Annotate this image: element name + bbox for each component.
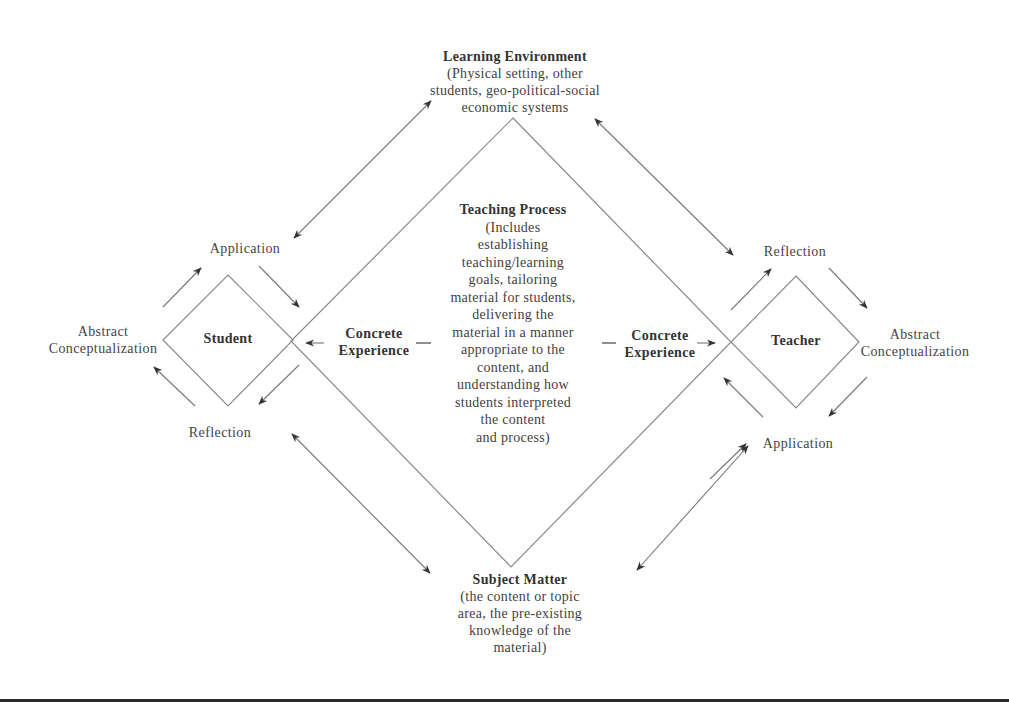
concrete-experience-left-label: Concrete Experience — [332, 325, 416, 359]
teaching-process-desc-4: goals, tailoring — [413, 271, 613, 289]
teacher-abstract-conceptualization-label: Abstract Conceptualization — [850, 326, 980, 360]
teaching-process-desc-10: understanding how — [413, 376, 613, 394]
student-abstract-line1: Abstract — [38, 323, 168, 340]
learning-environment-desc-2: students, geo-political-social — [395, 82, 635, 99]
student-abstract-line2: Conceptualization — [38, 340, 168, 357]
teaching-process-desc-7: material in a manner — [413, 324, 613, 342]
student-reflection-to-abstract-arrow-icon — [154, 367, 195, 406]
teacher-label: Teacher — [756, 333, 836, 349]
teaching-process-label: Teaching Process (Includes establishing … — [413, 201, 613, 446]
teaching-process-desc-3: teaching/learning — [413, 254, 613, 272]
subject-matter-desc-4: material) — [430, 639, 610, 656]
teaching-process-desc-9: content, and — [413, 359, 613, 377]
subject-matter-desc-2: area, the pre-existing — [430, 605, 610, 622]
teaching-process-desc-12: the content — [413, 411, 613, 429]
subject-matter-title: Subject Matter — [430, 571, 610, 588]
teaching-process-desc-1: (Includes — [413, 219, 613, 237]
subject-matter-label: Subject Matter (the content or topic are… — [430, 571, 610, 656]
teaching-process-desc-2: establishing — [413, 236, 613, 254]
teaching-process-title: Teaching Process — [413, 201, 613, 219]
teacher-application-to-concrete-arrow-icon — [724, 378, 763, 417]
teacher-application-label: Application — [743, 435, 853, 452]
subject-matter-desc-3: knowledge of the — [430, 622, 610, 639]
teacher-reflection-label: Reflection — [740, 243, 850, 260]
student-abstract-conceptualization-label: Abstract Conceptualization — [38, 323, 168, 357]
learning-environment-label: Learning Environment (Physical setting, … — [395, 48, 635, 116]
subject-student-double-arrow-icon — [292, 434, 430, 573]
concrete-left-line2: Experience — [332, 342, 416, 359]
learning-environment-desc-1: (Physical setting, other — [395, 65, 635, 82]
env-student-double-arrow-icon — [294, 101, 431, 238]
teacher-abstract-line1: Abstract — [850, 326, 980, 343]
teacher-concrete-to-reflection-arrow-icon — [731, 269, 771, 310]
subject-teacher-double-arrow-icon — [637, 446, 748, 570]
teaching-process-desc-8: appropriate to the — [413, 341, 613, 359]
student-abstract-to-application-arrow-icon — [163, 268, 201, 307]
teacher-abstract-line2: Conceptualization — [850, 343, 980, 360]
teacher-reflection-to-abstract-arrow-icon — [829, 268, 867, 308]
concrete-right-line2: Experience — [618, 344, 702, 361]
concrete-left-line1: Concrete — [332, 325, 416, 342]
teaching-process-desc-13: and process) — [413, 429, 613, 447]
student-reflection-label: Reflection — [170, 424, 270, 441]
teaching-process-desc-5: material for students, — [413, 289, 613, 307]
student-application-label: Application — [190, 240, 300, 257]
student-label: Student — [188, 331, 268, 347]
learning-environment-title: Learning Environment — [395, 48, 635, 65]
subject-matter-desc-1: (the content or topic — [430, 588, 610, 605]
env-teacher-double-arrow-icon — [595, 119, 733, 255]
teacher-application-from-subject-arrow-icon — [710, 444, 746, 479]
teaching-process-desc-11: students interpreted — [413, 394, 613, 412]
concrete-experience-right-label: Concrete Experience — [618, 327, 702, 361]
student-application-to-concrete-arrow-icon — [259, 266, 299, 307]
concrete-right-line1: Concrete — [618, 327, 702, 344]
learning-environment-desc-3: economic systems — [395, 99, 635, 116]
teaching-process-desc-6: delivering the — [413, 306, 613, 324]
teacher-abstract-to-application-arrow-icon — [829, 377, 867, 416]
student-concrete-to-reflection-arrow-icon — [259, 365, 299, 404]
horizontal-rule — [0, 699, 1009, 702]
